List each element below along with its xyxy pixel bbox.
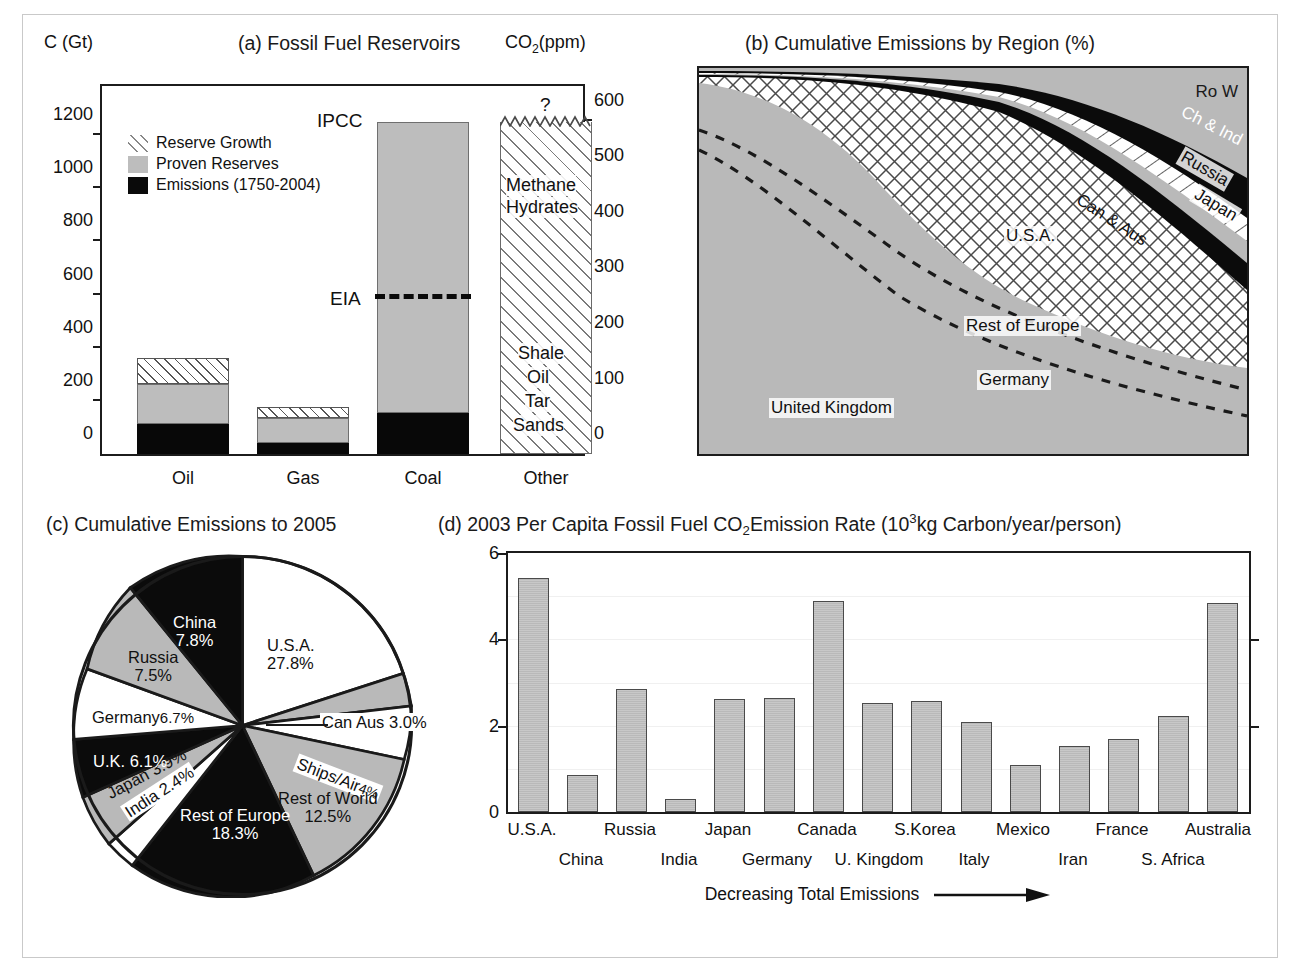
panel-b-cumulative-emissions-by-region: (b) Cumulative Emissions by Region (%) [650,0,1299,500]
panel-a-right-axis-label: CO2(ppm) [505,32,586,56]
pb-y-tick-50 [697,261,699,263]
region-label-usa: U.S.A. [1004,226,1057,246]
region-label-germany: Germany [977,370,1051,390]
bar-china[interactable] [567,775,598,812]
panel-a-fossil-fuel-reservoirs: C (Gt) (a) Fossil Fuel Reservoirs CO2(pp… [0,0,650,500]
co2-subscript: 2 [532,42,539,56]
proven-reserves-swatch-icon [128,156,148,173]
panel-a-title: (a) Fossil Fuel Reservoirs [238,32,460,55]
y-tick-600 [93,293,102,295]
bar-germany[interactable] [764,698,795,812]
y-label-200: 200 [63,369,93,390]
pie-label-russia-value: 7.5% [134,666,172,684]
gridline-3 [508,683,1249,684]
pb-x-tick-1850 [699,454,701,456]
pb-y-tick-70 [697,184,699,186]
pd-y-tick-4 [498,639,508,641]
eia-dashed-line [375,294,471,299]
pie-label-usa-name: U.S.A. [267,636,315,654]
co2-text: CO [505,32,532,52]
bar-australia[interactable] [1207,603,1238,812]
pie-label-russia: Russia 7.5% [128,648,178,685]
pd-y-tick-2 [498,726,508,728]
bar-coal-proven [377,122,469,413]
reserve-growth-swatch-icon [128,135,148,152]
pd-y-label-6: 6 [489,543,499,564]
panel-d-plot-area: 6 4 2 0 [506,551,1251,814]
other-label-oil: Oil [527,367,549,388]
y-label-800: 800 [63,210,93,231]
other-label-shale: Shale [518,343,564,364]
bar-italy[interactable] [961,722,992,812]
cat-russia: Russia [604,820,656,840]
pie-label-rest-of-europe: Rest of Europe 18.3% [180,806,290,843]
pie-label-uk: U.K. 6.1% [93,752,167,770]
panel-d-footer: Decreasing Total Emissions [506,884,1251,905]
pd-y-label-0: 0 [489,802,499,823]
pie-label-rest-of-world-value: 12.5% [304,807,351,825]
panel-a-plot-area: 1200 1000 800 600 400 200 0 600 500 400 … [100,84,585,456]
pie-label-usa-value: 27.8% [267,654,314,672]
x-label-other: Other [523,468,568,489]
bar-iran[interactable] [1059,746,1090,813]
y2-label-0: 0 [594,423,604,444]
y-tick-800 [93,239,102,241]
panel-b-title: (b) Cumulative Emissions by Region (%) [745,32,1095,55]
bar-oil-reserve-growth [137,358,229,383]
bar-russia[interactable] [616,689,647,812]
pd-y-tick-2-right [1249,726,1259,728]
region-label-row: Ro W [1196,82,1239,102]
cat-france: France [1096,820,1149,840]
eia-annotation: EIA [330,288,361,310]
y-tick-1200 [93,133,102,135]
other-label-sands: Sands [513,415,564,436]
cat-japan: Japan [705,820,751,840]
pie-label-can-aus: Can Aus 3.0% [320,713,429,731]
pie-label-china-name: China [173,613,216,631]
panel-d-title: (d) 2003 Per Capita Fossil Fuel CO2Emiss… [438,511,1121,538]
pb-x-tick-2000 [1229,454,1231,456]
pie-label-rest-of-europe-value: 18.3% [212,824,259,842]
y-label-600: 600 [63,263,93,284]
bar-skorea[interactable] [911,701,942,812]
bar-france[interactable] [1108,739,1139,812]
emissions-swatch-icon [128,177,148,194]
other-label-methane: Methane [506,175,576,196]
bar-safrica[interactable] [1158,716,1189,812]
pie-label-uk-value: 6.1% [130,752,168,770]
y-label-1200: 1200 [53,104,93,125]
cat-germany: Germany [742,850,812,870]
panel-b-stacked-area-svg [699,68,1247,454]
panel-c-title: (c) Cumulative Emissions to 2005 [46,513,336,536]
figure-root: C (Gt) (a) Fossil Fuel Reservoirs CO2(pp… [0,0,1299,974]
pd-y-label-4: 4 [489,629,499,650]
x-label-gas: Gas [286,468,319,489]
cat-skorea: S.Korea [894,820,955,840]
bar-canada[interactable] [813,601,844,812]
bar-gas-emissions [257,443,349,454]
pb-y-tick-10 [697,415,699,417]
bar-usa[interactable] [518,578,549,812]
bar-oil [137,358,229,454]
pb-y-tick-100 [697,68,699,70]
y2-label-200: 200 [594,312,624,333]
panel-d-title-pre: (d) 2003 Per Capita Fossil Fuel CO [438,513,743,535]
bar-japan[interactable] [714,699,745,812]
cat-china: China [559,850,603,870]
legend-label-emissions: Emissions (1750-2004) [156,176,321,194]
pb-y-tick-20 [697,377,699,379]
cat-uk: U. Kingdom [835,850,924,870]
cat-india: India [661,850,698,870]
pd-y-label-2: 2 [489,715,499,736]
bar-india[interactable] [665,799,696,812]
panel-a-left-axis-label: C (Gt) [44,32,93,53]
legend-item-proven-reserves: Proven Reserves [128,155,321,173]
bar-oil-proven [137,384,229,424]
bar-uk[interactable] [862,703,893,812]
cat-australia: Australia [1185,820,1251,840]
bar-mexico[interactable] [1010,765,1041,812]
panel-a-legend: Reserve Growth Proven Reserves Emissions… [128,134,321,197]
ppm-text: (ppm) [539,32,586,52]
bar-coal-emissions [377,413,469,454]
y-label-400: 400 [63,316,93,337]
